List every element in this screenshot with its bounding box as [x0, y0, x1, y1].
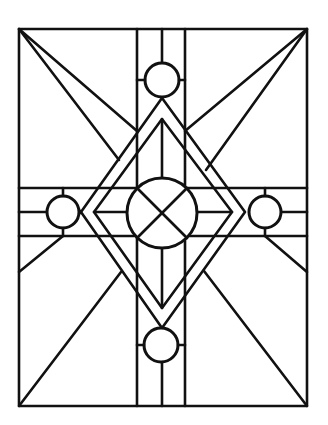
diag-left-circle	[19, 236, 63, 272]
diag-bl	[19, 272, 121, 406]
circle-top	[145, 63, 179, 97]
circle-right	[249, 196, 281, 228]
diag-br	[204, 271, 307, 406]
circle-left	[47, 196, 79, 228]
diag-tl-a	[19, 29, 137, 131]
diag-tl-b	[19, 29, 119, 160]
stained-glass-pattern	[0, 0, 328, 425]
circle-bottom	[144, 328, 178, 362]
diag-right-circle	[265, 236, 307, 272]
